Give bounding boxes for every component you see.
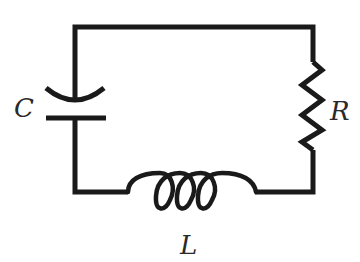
inductor-coil-icon: [128, 173, 256, 209]
resistor-label: R: [330, 98, 350, 124]
wire-bottom-left: [75, 118, 128, 192]
resistor-zigzag-icon: [302, 62, 322, 150]
capacitor-label: C: [14, 95, 34, 121]
inductor-label: L: [180, 232, 197, 258]
wire-top: [75, 27, 313, 99]
wire-bottom-right: [255, 150, 313, 192]
rlc-circuit-diagram: [0, 0, 360, 262]
